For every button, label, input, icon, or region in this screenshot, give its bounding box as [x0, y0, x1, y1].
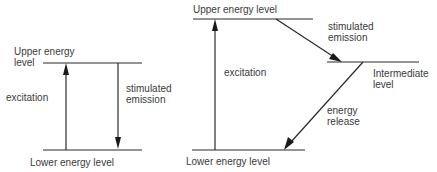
left-excitation-label: excitation: [6, 92, 48, 103]
left-stimulated-label-line2: emission: [126, 94, 165, 105]
right-stimulated-label-line1: stimulated: [328, 21, 374, 32]
right-excitation-arrow-icon: [212, 19, 218, 150]
left-upper-label-line1: Upper energy: [14, 46, 75, 57]
right-intermediate-label-line2: level: [373, 79, 394, 90]
right-lower-label: Lower energy level: [186, 156, 270, 167]
energy-level-diagram: Upper energy level excitation stimulated…: [0, 0, 437, 172]
left-upper-label-line2: level: [14, 57, 35, 68]
right-release-label-line1: energy: [327, 105, 358, 116]
right-upper-label: Upper energy level: [193, 4, 277, 15]
left-excitation-arrow-icon: [63, 63, 69, 150]
left-lower-label: Lower energy level: [30, 157, 114, 168]
right-release-label-line2: release: [327, 116, 360, 127]
three-level-diagram: Upper energy level excitation stimulated…: [186, 4, 429, 167]
two-level-diagram: Upper energy level excitation stimulated…: [6, 46, 172, 168]
right-intermediate-label-line1: Intermediate: [373, 68, 429, 79]
left-stimulated-label-line1: stimulated: [126, 83, 172, 94]
right-excitation-label: excitation: [224, 67, 266, 78]
right-stimulated-label-line2: emission: [328, 32, 367, 43]
left-emission-arrow-icon: [115, 63, 121, 149]
